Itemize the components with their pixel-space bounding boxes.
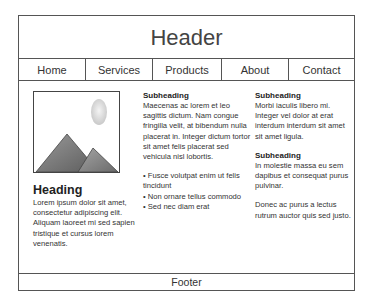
nav-item-products[interactable]: Products bbox=[153, 59, 222, 80]
column-body: Lorem ipsum dolor sit amet, consectetur … bbox=[33, 198, 135, 249]
column-subheading: Subheading bbox=[255, 91, 351, 101]
column-middle: Subheading Maecenas ac lorem et leo sagi… bbox=[143, 91, 251, 212]
wireframe-page: Header Home Services Products About Cont… bbox=[18, 15, 355, 291]
page-header: Header bbox=[19, 16, 354, 59]
image-placeholder-icon bbox=[33, 91, 120, 173]
nav-bar: Home Services Products About Contact bbox=[19, 59, 354, 81]
nav-item-home[interactable]: Home bbox=[19, 59, 86, 80]
column-body: Maecenas ac lorem et leo sagittis dictum… bbox=[143, 101, 251, 162]
column-body: Donec ac purus a lectus rutrum auctor qu… bbox=[255, 200, 351, 220]
column-body: In molestie massa eu sem dapibus et cons… bbox=[255, 161, 351, 192]
column-body: Morbi iaculis libero mi. Integer vel dol… bbox=[255, 101, 351, 142]
column-subheading: Subheading bbox=[143, 91, 251, 101]
nav-item-services[interactable]: Services bbox=[86, 59, 153, 80]
bullet-item: • Non ornare tellus commodo bbox=[143, 192, 251, 202]
bullet-item: • Sed nec diam erat bbox=[143, 202, 251, 212]
column-right: Subheading Morbi iaculis libero mi. Inte… bbox=[255, 91, 351, 221]
nav-item-contact[interactable]: Contact bbox=[289, 59, 354, 80]
main-content: Heading Lorem ipsum dolor sit amet, cons… bbox=[19, 81, 354, 274]
column-subheading: Subheading bbox=[255, 151, 351, 161]
column-left: Heading Lorem ipsum dolor sit amet, cons… bbox=[33, 183, 135, 249]
nav-item-about[interactable]: About bbox=[222, 59, 289, 80]
page-footer: Footer bbox=[19, 273, 354, 290]
column-heading: Heading bbox=[33, 183, 135, 197]
bullet-item: • Fusce volutpat enim ut felis tincidunt bbox=[143, 171, 251, 191]
sun-icon bbox=[91, 99, 107, 125]
